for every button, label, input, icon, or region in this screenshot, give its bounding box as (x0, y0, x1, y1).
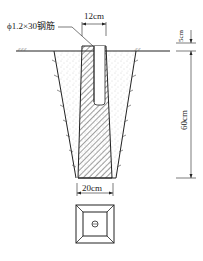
rebar-leader (58, 27, 93, 46)
depth-main-label: 60cm (180, 110, 189, 130)
dimension-top-width (82, 22, 106, 36)
depth-top-label: 5cm (178, 30, 185, 42)
concrete-post (78, 46, 112, 178)
top-width-label: 12cm (84, 12, 104, 21)
dimension-depth (176, 30, 196, 178)
section-drawing: ⁄⁄⁄ ⁄⁄⁄ ⁄⁄⁄ ⁄⁄⁄ ⁄⁄⁄ (0, 0, 203, 261)
rebar-label: ϕ1.2×30钢筋 (7, 22, 55, 31)
svg-text:⁄⁄⁄ ⁄⁄⁄ ⁄⁄⁄: ⁄⁄⁄ ⁄⁄⁄ ⁄⁄⁄ (17, 47, 27, 52)
diagram-canvas: ⁄⁄⁄ ⁄⁄⁄ ⁄⁄⁄ ⁄⁄⁄ ⁄⁄⁄ (0, 0, 203, 261)
plan-view (76, 205, 114, 243)
bottom-width-label: 20cm (82, 184, 102, 193)
